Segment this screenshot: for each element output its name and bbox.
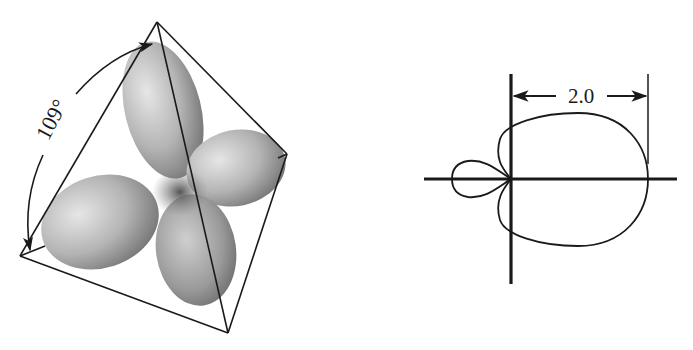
figure-canvas: 109° 2.0 [0, 0, 693, 350]
bond-angle-label: 109° [31, 95, 73, 144]
orbital-lobe-left [29, 160, 172, 285]
sp3-tetrahedron-diagram: 109° [20, 22, 293, 333]
polar-plot-diagram: 2.0 [424, 74, 677, 284]
dimension-label: 2.0 [568, 84, 594, 108]
angle-arc-lower [28, 155, 43, 250]
